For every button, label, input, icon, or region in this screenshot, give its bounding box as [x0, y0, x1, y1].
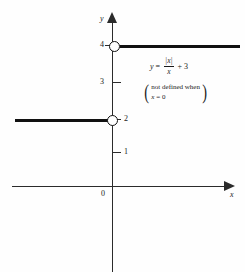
y-tick-label-2: 2: [124, 114, 128, 123]
note-close-paren: ): [202, 82, 207, 103]
graph-figure: x y 4 3 2 1 0 y = |x| x + 3 ( not define…: [0, 0, 245, 272]
note-line-2-rest: = 0: [156, 93, 165, 101]
y-axis-arrowhead-icon: [107, 12, 117, 23]
note-variable: x: [151, 93, 154, 101]
note-body: not defined when x = 0: [150, 82, 201, 103]
y-tick-mark-1: [113, 152, 121, 153]
graph-ray-positive-branch: [120, 45, 240, 48]
graph-ray-negative-branch: [15, 119, 109, 122]
equation-plus-term: + 3: [176, 62, 189, 71]
y-tick-label-1: 1: [124, 147, 128, 156]
y-tick-mark-3: [113, 82, 121, 83]
y-axis-line: [112, 18, 113, 272]
note-line-2: x = 0: [151, 92, 200, 102]
equation-fraction: |x| x: [164, 57, 173, 75]
fraction-numerator: |x|: [164, 57, 173, 65]
open-circle-at-y-2: [107, 115, 118, 126]
note-line-1: not defined when: [151, 82, 200, 92]
origin-label: 0: [101, 189, 105, 198]
fraction-denominator: x: [166, 68, 171, 76]
y-axis-label: y: [100, 14, 104, 23]
x-axis-label: x: [230, 190, 234, 199]
note-open-paren: (: [144, 82, 149, 103]
open-circle-at-y-4: [109, 41, 120, 52]
y-tick-label-4: 4: [100, 40, 104, 49]
equation-equals: =: [154, 62, 163, 71]
equation-annotation: y = |x| x + 3: [150, 57, 188, 75]
y-tick-label-3: 3: [100, 77, 104, 86]
x-axis-line: [12, 186, 226, 187]
not-defined-note: ( not defined when x = 0 ): [143, 82, 208, 103]
